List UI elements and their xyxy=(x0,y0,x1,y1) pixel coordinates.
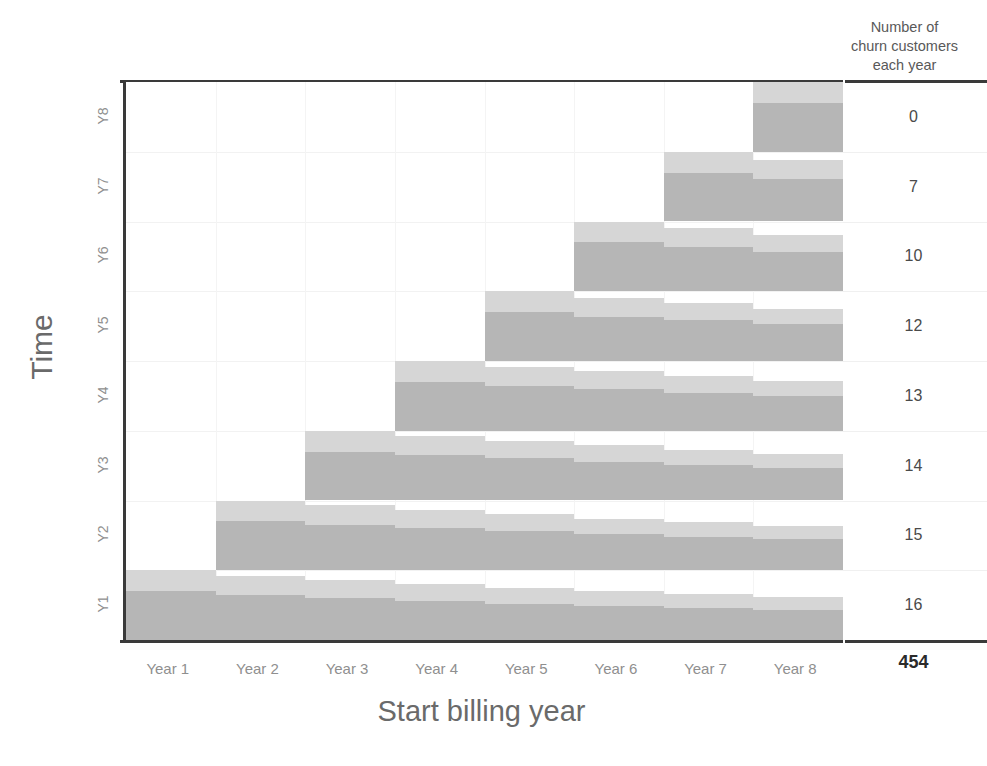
y-axis-tick-label: Y8 xyxy=(95,81,111,151)
cohort-bar xyxy=(485,588,575,640)
cohort-bar-segment-dark xyxy=(664,537,754,571)
churn-values-column: 07101213141516 xyxy=(840,82,987,640)
cohort-bar-segment-light xyxy=(574,591,664,606)
cohort-bar-segment-dark xyxy=(395,382,485,431)
cohort-bar-segment-light xyxy=(664,303,754,320)
x-axis-title: Start billing year xyxy=(123,695,840,728)
cohort-bar-segment-light xyxy=(216,576,306,595)
cohort-bar xyxy=(485,367,575,431)
cohort-bar xyxy=(664,522,754,570)
cohort-bar xyxy=(753,235,843,291)
churn-value-cell: 15 xyxy=(840,501,987,571)
cohort-bar-segment-light xyxy=(753,160,843,178)
x-axis-tick-label: Year 5 xyxy=(481,660,571,677)
cohort-bar xyxy=(574,222,664,292)
churn-value-cell: 14 xyxy=(840,431,987,501)
cohort-bar-segment-light xyxy=(574,445,664,462)
right-panel-header: Number of churn customers each year xyxy=(822,18,987,75)
cohort-bar xyxy=(395,436,485,501)
cohort-bar xyxy=(485,291,575,361)
cohort-bar xyxy=(395,584,485,640)
churn-total-value: 454 xyxy=(840,652,987,673)
cohort-bar-segment-light xyxy=(574,519,664,534)
cohort-bar-segment-light xyxy=(305,431,395,452)
cohort-bar xyxy=(664,450,754,501)
cohort-bar-segment-light xyxy=(664,152,754,173)
cohort-bar-segment-light xyxy=(753,82,843,103)
cohort-bar-segment-dark xyxy=(664,393,754,431)
churn-value-cell: 13 xyxy=(840,361,987,431)
cohort-bar-segment-dark xyxy=(664,465,754,501)
cohort-bar-segment-dark xyxy=(574,462,664,501)
cohort-bar-segment-dark xyxy=(753,179,843,222)
cohort-bar-segment-dark xyxy=(395,601,485,640)
cohort-bar xyxy=(485,514,575,570)
cohort-bar-segment-dark xyxy=(216,595,306,640)
cohort-bar-segment-dark xyxy=(753,252,843,291)
cohort-bar-segment-dark xyxy=(753,324,843,361)
cohort-bar-segment-dark xyxy=(574,242,664,291)
cohort-bar-segment-light xyxy=(395,584,485,601)
cohort-bar xyxy=(753,526,843,571)
cohort-bar-segment-light xyxy=(216,501,306,522)
cohort-bar-segment-light xyxy=(305,580,395,598)
right-panel-separator xyxy=(840,431,987,432)
cohort-bar xyxy=(753,160,843,221)
right-panel-separator xyxy=(840,291,987,292)
cohort-bar-segment-light xyxy=(664,522,754,536)
cohort-bar xyxy=(574,519,664,571)
cohort-bar-segment-light xyxy=(485,367,575,386)
right-panel-separator xyxy=(840,570,987,571)
cohort-bar-segment-dark xyxy=(664,247,754,291)
churn-value-cell: 7 xyxy=(840,152,987,222)
cohort-bar xyxy=(485,441,575,501)
cohort-bar-segment-dark xyxy=(216,521,306,570)
cohort-bar-segment-light xyxy=(664,228,754,247)
cohort-bar-segment-dark xyxy=(753,610,843,640)
cohort-bar-segment-dark xyxy=(395,455,485,500)
x-axis-tick-label: Year 7 xyxy=(661,660,751,677)
plot-area xyxy=(123,82,843,640)
x-axis-tick-label: Year 1 xyxy=(123,660,213,677)
cohort-bar-segment-light xyxy=(753,597,843,610)
churn-value-cell: 0 xyxy=(840,82,987,152)
cohort-bar-segment-light xyxy=(574,222,664,243)
cohort-bar-segment-light xyxy=(753,526,843,539)
cohort-bar xyxy=(395,510,485,570)
cohort-bar-segment-light xyxy=(664,450,754,465)
cohort-bar xyxy=(753,597,843,640)
cohort-bar-segment-dark xyxy=(485,604,575,640)
cohort-bar-segment-dark xyxy=(574,389,664,431)
y-axis-tick-label: Y1 xyxy=(95,569,111,639)
churn-value-cell: 10 xyxy=(840,222,987,292)
right-panel-separator xyxy=(840,152,987,153)
cohort-bar-segment-light xyxy=(395,510,485,528)
cohort-bar xyxy=(664,594,754,640)
cohort-bar-segment-light xyxy=(664,594,754,608)
cohort-bar-segment-light xyxy=(664,376,754,392)
cohort-bar xyxy=(305,505,395,570)
cohort-bar-segment-dark xyxy=(485,312,575,361)
right-panel-separator xyxy=(840,222,987,223)
x-axis-tick-label: Year 6 xyxy=(571,660,661,677)
cohort-bar-segment-dark xyxy=(664,320,754,361)
cohort-bar-segment-dark xyxy=(485,531,575,570)
cohort-bar-segment-light xyxy=(753,381,843,396)
x-axis-tick-label: Year 4 xyxy=(392,660,482,677)
y-axis-tick-label: Y3 xyxy=(95,430,111,500)
cohort-bar-segment-light xyxy=(574,298,664,317)
cohort-bar-segment-light xyxy=(395,361,485,382)
x-axis-tick-label: Year 8 xyxy=(750,660,840,677)
y-axis-tick-label: Y4 xyxy=(95,360,111,430)
cohort-bar-segment-light xyxy=(753,235,843,252)
cohort-bar xyxy=(216,501,306,571)
x-axis-tick-label: Year 2 xyxy=(212,660,302,677)
cohort-bar-segment-dark xyxy=(395,528,485,570)
cohort-bar-segment-dark xyxy=(485,386,575,431)
cohort-bar-segment-dark xyxy=(574,534,664,570)
cohort-bar-segment-dark xyxy=(753,103,843,152)
cohort-bar xyxy=(664,152,754,222)
cohort-bar-segment-dark xyxy=(305,598,395,640)
cohort-bar xyxy=(664,228,754,291)
cohort-bar-segment-light xyxy=(395,436,485,455)
